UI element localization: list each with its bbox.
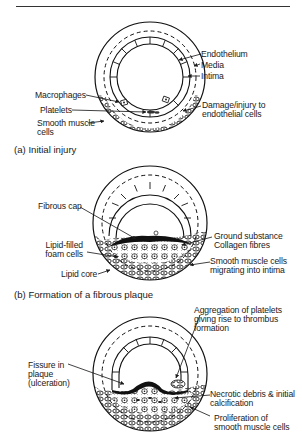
panel-c-vessel	[93, 317, 207, 442]
panel-b-vessel	[93, 166, 207, 289]
label-macrophages: Macrophages	[10, 91, 86, 100]
label-lipid-core: Lipid core	[61, 270, 97, 279]
label-endothelial-damage: Damage/injury to endothelial cells	[202, 101, 265, 119]
label-platelet-aggregation: Aggregation of platelets giving rise to …	[194, 306, 282, 333]
label-smc-migrating: Smooth muscle cells migrating into intim…	[210, 257, 287, 275]
label-ground-substance: Ground substance Collagen fibres	[214, 232, 283, 250]
label-proliferation: Proliferation of smooth muscle cells	[214, 414, 289, 432]
caption-fibrous-plaque: (b) Formation of a fibrous plaque	[14, 290, 153, 300]
label-fissure: Fissure in plaque (ulceration)	[28, 361, 70, 388]
label-platelets: Platelets	[10, 106, 72, 115]
label-foam-cells: Lipid-filled foam cells	[10, 241, 83, 259]
label-smooth-muscle-cells: Smooth muscle cells	[37, 119, 95, 137]
label-intima: Intima	[201, 72, 224, 81]
panel-a-vessel	[95, 22, 205, 135]
label-endothelium: Endothelium	[201, 50, 248, 59]
label-media: Media	[201, 61, 224, 70]
label-necrotic-debris: Necrotic debris & initial calcification	[210, 390, 295, 408]
label-fibrous-cap: Fibrous cap	[38, 202, 82, 211]
caption-initial-injury: (a) Initial injury	[14, 145, 76, 155]
